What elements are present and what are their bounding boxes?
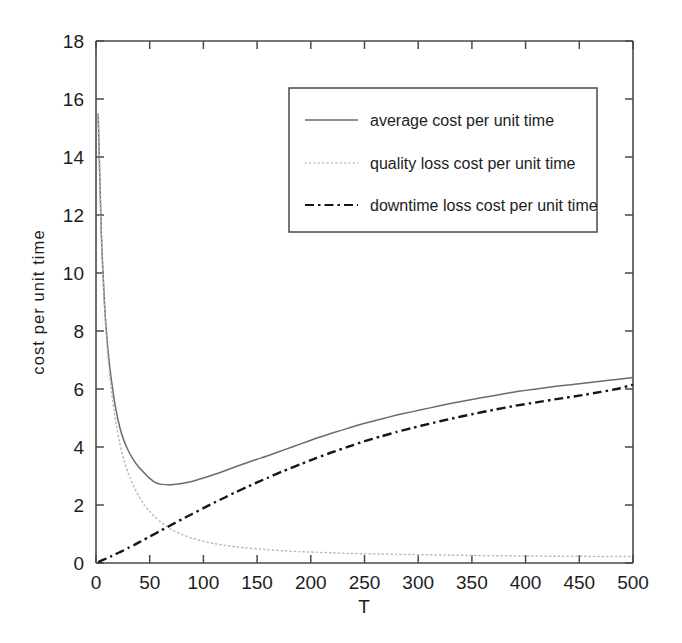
x-tick-label-300: 300 — [402, 572, 434, 593]
y-tick-label-2: 2 — [73, 495, 84, 516]
y-tick-label-12: 12 — [63, 205, 84, 226]
y-tick-label-4: 4 — [73, 437, 84, 458]
y-tick-label-6: 6 — [73, 379, 84, 400]
x-tick-label-200: 200 — [295, 572, 327, 593]
y-axis-title: cost per unit time — [29, 229, 47, 374]
y-tick-label-18: 18 — [63, 31, 84, 52]
x-tick-label-100: 100 — [188, 572, 220, 593]
x-tick-label-0: 0 — [91, 572, 102, 593]
chart-legend: average cost per unit time quality loss … — [289, 88, 598, 232]
cost-per-unit-time-line-chart: 050100150200250300350400450500 024681012… — [0, 0, 682, 643]
x-tick-label-150: 150 — [241, 572, 273, 593]
x-tick-label-450: 450 — [563, 572, 595, 593]
figure-container: 050100150200250300350400450500 024681012… — [0, 0, 682, 643]
legend-label-quality-loss-cost: quality loss cost per unit time — [370, 155, 576, 172]
y-tick-label-10: 10 — [63, 263, 84, 284]
x-axis-title: T — [358, 596, 370, 617]
x-tick-label-50: 50 — [139, 572, 160, 593]
legend-label-average-cost: average cost per unit time — [370, 112, 554, 129]
y-tick-label-14: 14 — [63, 147, 85, 168]
x-tick-label-400: 400 — [510, 572, 542, 593]
y-tick-label-16: 16 — [63, 89, 84, 110]
x-tick-label-500: 500 — [617, 572, 649, 593]
x-tick-label-250: 250 — [349, 572, 381, 593]
y-tick-label-8: 8 — [73, 321, 84, 342]
y-tick-label-0: 0 — [73, 553, 84, 574]
x-tick-label-350: 350 — [456, 572, 488, 593]
legend-label-downtime-loss-cost: downtime loss cost per unit time — [370, 197, 598, 214]
